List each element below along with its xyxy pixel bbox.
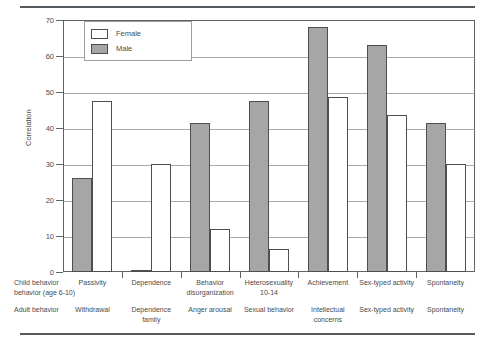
- bar-male-0: [72, 178, 92, 272]
- bar-female-6: [446, 164, 466, 272]
- adult-label-2: Anger arousal: [181, 305, 240, 315]
- y-tick-label-50: 50: [46, 88, 54, 97]
- adult-label-5: Sex-typed activity: [357, 305, 416, 315]
- figure-container: Correlation 010203040506070 Female Male …: [0, 0, 491, 343]
- y-tick-70: [56, 20, 63, 21]
- y-axis-title: Correlation: [24, 109, 33, 146]
- y-tick-label-40: 40: [46, 124, 54, 133]
- child-label-2: Behavior disorganization: [181, 278, 240, 297]
- legend-item-male: Male: [91, 41, 185, 56]
- y-tick-label-20: 20: [46, 196, 54, 205]
- bottom-horizontal-rule: [20, 333, 475, 335]
- y-tick-30: [56, 164, 63, 165]
- child-label-6: Spontaneity: [416, 278, 475, 288]
- y-tick-label-30: 30: [46, 160, 54, 169]
- y-tick-10: [56, 236, 63, 237]
- y-tick-40: [56, 128, 63, 129]
- bar-male-5: [367, 45, 387, 272]
- y-tick-60: [56, 56, 63, 57]
- adult-label-1: Dependence family: [122, 305, 181, 324]
- top-horizontal-rule: [20, 6, 475, 8]
- bar-male-6: [426, 123, 446, 272]
- y-tick-20: [56, 200, 63, 201]
- bar-female-0: [92, 101, 112, 272]
- bar-female-2: [210, 229, 230, 272]
- chart-legend: Female Male: [84, 21, 192, 61]
- y-tick-label-70: 70: [46, 16, 54, 25]
- bar-female-1: [151, 164, 171, 272]
- y-tick-label-60: 60: [46, 52, 54, 61]
- child-label-5: Sex-typed activity: [357, 278, 416, 288]
- y-tick-50: [56, 92, 63, 93]
- adult-behavior-row-title: Adult behavior: [14, 305, 59, 315]
- legend-swatch-male-icon: [91, 44, 108, 54]
- adult-label-3: Sexual behavior: [240, 305, 299, 315]
- adult-label-6: Spontaneity: [416, 305, 475, 315]
- child-label-4: Achievement: [298, 278, 357, 288]
- child-label-0: Passivity: [63, 278, 122, 288]
- legend-label-female: Female: [116, 29, 141, 38]
- child-label-1: Dependence: [122, 278, 181, 288]
- bar-male-2: [190, 123, 210, 272]
- legend-item-female: Female: [91, 26, 185, 41]
- bar-female-4: [328, 97, 348, 272]
- adult-label-4: Intellectual concerns: [298, 305, 357, 324]
- legend-label-male: Male: [116, 44, 132, 53]
- bar-female-5: [387, 115, 407, 272]
- x-axis-labels-layer: Child behavior behavior (age 6-10) Adult…: [0, 272, 491, 332]
- bar-male-4: [308, 27, 328, 272]
- legend-swatch-female-icon: [91, 29, 108, 39]
- child-label-3: Heterosexuality 10-14: [240, 278, 299, 297]
- y-tick-label-10: 10: [46, 232, 54, 241]
- bar-female-3: [269, 249, 289, 272]
- bar-male-3: [249, 101, 269, 272]
- adult-label-0: Withdrawal: [63, 305, 122, 315]
